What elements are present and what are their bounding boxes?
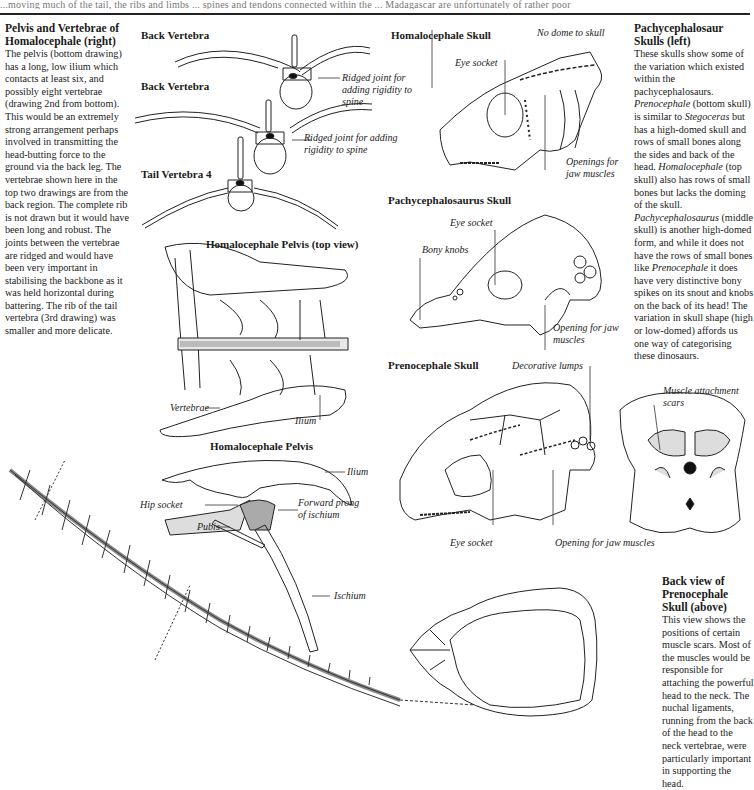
right-body: These skulls show some of the variation … bbox=[634, 48, 754, 363]
homalocephale-skull-drawing bbox=[440, 52, 602, 170]
label-ridged-joint-2: Ridged joint for adding rigidity to spin… bbox=[304, 132, 414, 156]
back-view-body: This view shows the positions of certain… bbox=[662, 614, 754, 790]
title-pelvis-side: Homalocephale Pelvis bbox=[210, 440, 313, 452]
left-heading: Pelvis and Vertebrae of Homalocephale (r… bbox=[5, 22, 133, 48]
title-back-vertebra-2: Back Vertebra bbox=[141, 80, 209, 92]
label-eye-socket-preno: Eye socket bbox=[450, 537, 492, 549]
label-ilium-side: Ilium bbox=[347, 466, 368, 478]
pelvis-side-view-drawing bbox=[162, 460, 352, 652]
right-column: Pachycephalosaur Skulls (left) These sku… bbox=[634, 22, 754, 363]
pachycephalosaurus-skull-drawing bbox=[410, 215, 601, 335]
label-vertebrae: Vertebrae bbox=[170, 402, 209, 414]
left-body: The pelvis (bottom drawing) has a long, … bbox=[5, 48, 133, 338]
title-homalocephale-skull: Homalocephale Skull bbox=[391, 29, 491, 41]
label-hip-socket: Hip socket bbox=[140, 499, 183, 511]
label-muscle-scars: Muscle attachment scars bbox=[663, 385, 743, 409]
title-prenocephale-skull: Prenocephale Skull bbox=[388, 359, 479, 371]
back-view-heading: Back view of Prenocephale Skull (above) bbox=[662, 575, 754, 614]
tail-skeleton-drawing bbox=[10, 460, 475, 706]
label-openings-jaw: Openings for jaw muscles bbox=[566, 156, 626, 180]
back-view-column: Back view of Prenocephale Skull (above) … bbox=[662, 575, 754, 790]
label-ridged-joint-1: Ridged joint for adding rigidity to spin… bbox=[342, 72, 432, 108]
label-opening-jaw-pachy: Opening for jaw muscles bbox=[553, 322, 633, 346]
label-pubis: Pubis bbox=[197, 521, 220, 533]
skull-top-view-drawing bbox=[410, 588, 597, 716]
back-vertebra-1-drawing bbox=[175, 35, 370, 109]
prenocephale-skull-drawing bbox=[400, 383, 595, 520]
left-column: Pelvis and Vertebrae of Homalocephale (r… bbox=[5, 22, 133, 338]
title-back-vertebra-1: Back Vertebra bbox=[141, 29, 209, 41]
back-view-skull-drawing bbox=[620, 393, 745, 533]
label-bony-knobs: Bony knobs bbox=[422, 244, 468, 256]
label-no-dome: No dome to skull bbox=[537, 27, 605, 39]
label-eye-socket-homalo: Eye socket bbox=[455, 57, 497, 69]
label-ilium-top: Ilium bbox=[295, 415, 316, 427]
title-pelvis-top: Homalocephale Pelvis (top view) bbox=[206, 238, 358, 250]
title-tail-vertebra: Tail Vertebra 4 bbox=[141, 168, 212, 180]
label-decorative-lumps: Decorative lumps bbox=[512, 360, 583, 372]
label-forward-prong: Forward prong of ischium bbox=[298, 497, 368, 521]
right-heading: Pachycephalosaur Skulls (left) bbox=[634, 22, 754, 48]
label-opening-jaw-preno: Opening for jaw muscles bbox=[555, 537, 655, 549]
label-eye-socket-pachy: Eye socket bbox=[450, 217, 492, 229]
label-ischium: Ischium bbox=[334, 590, 366, 602]
title-pachycephalosaurus-skull: Pachycephalosaurus Skull bbox=[388, 194, 511, 206]
